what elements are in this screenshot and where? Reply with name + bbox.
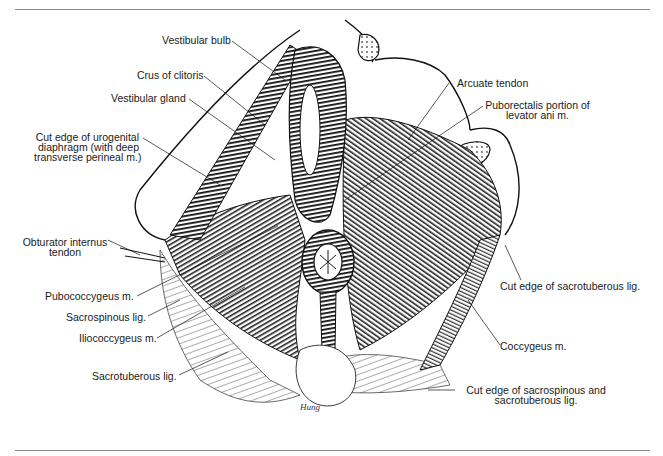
label-iliococcygeus: Iliococcygeus m.	[79, 333, 157, 343]
label-puborectalis: Puborectalis portion of levator ani m.	[485, 100, 590, 120]
label-line-2: sacrotuberous lig.	[466, 395, 606, 405]
label-vestibular-gland: Vestibular gland	[111, 93, 186, 103]
label-obturator-internus-tendon: Obturator internus tendon	[22, 237, 108, 257]
label-arcuate-tendon: Arcuate tendon	[457, 78, 528, 88]
label-crus-of-clitoris: Crus of clitoris	[137, 70, 204, 80]
coccyx-tip	[296, 345, 356, 406]
label-line-2: levator ani m.	[485, 110, 590, 120]
anococcygeal-body	[320, 292, 336, 350]
artist-signature: Hung	[299, 402, 320, 412]
label-vestibular-bulb: Vestibular bulb	[162, 35, 231, 45]
label-sacrotuberous-lig: Sacrotuberous lig.	[92, 371, 177, 381]
label-cut-edge-sacrotuberous: Cut edge of sacrotuberous lig.	[500, 281, 640, 291]
label-line-2: tendon	[22, 247, 108, 257]
label-pubococcygeus: Pubococcygeus m.	[45, 291, 134, 301]
label-sacrospinous-lig: Sacrospinous lig.	[66, 312, 146, 322]
vestibular-gland	[300, 85, 320, 175]
cut-pubic-bone-left	[358, 34, 379, 60]
label-cut-edge-urogenital-diaphragm: Cut edge of urogenital diaphragm (with d…	[34, 132, 139, 162]
label-cut-edge-sacrospinous: Cut edge of sacrospinous and sacrotubero…	[466, 385, 606, 405]
label-line-3: transverse perineal m.)	[34, 152, 139, 162]
label-coccygeus: Coccygeus m.	[500, 341, 567, 351]
